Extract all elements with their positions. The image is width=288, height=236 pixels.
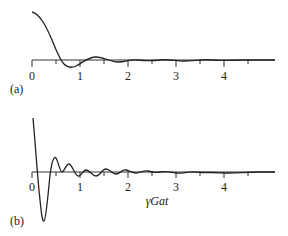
tick-label-3: 3 xyxy=(173,69,179,83)
tick-label-1: 1 xyxy=(77,180,83,194)
tick-label-3: 3 xyxy=(173,180,179,194)
tick-label-2: 2 xyxy=(125,180,131,194)
panel-label-a: (a) xyxy=(10,82,23,96)
tick-label-4: 4 xyxy=(221,69,227,83)
tick-label-0: 0 xyxy=(29,180,35,194)
panel-a: 0 1 2 3 4 (a) xyxy=(10,12,275,96)
panel-label-b: (b) xyxy=(10,214,24,228)
x-axis-title: γGat xyxy=(146,194,169,208)
curve-a xyxy=(32,12,275,67)
panel-b: 0 1 2 3 4 γGat (b) xyxy=(10,118,275,228)
tick-label-0: 0 xyxy=(29,69,35,83)
tick-label-1: 1 xyxy=(77,69,83,83)
tick-label-2: 2 xyxy=(125,69,131,83)
figure: 0 1 2 3 4 (a) 0 1 2 3 4 γGat (b) xyxy=(0,0,288,236)
tick-label-4: 4 xyxy=(221,180,227,194)
